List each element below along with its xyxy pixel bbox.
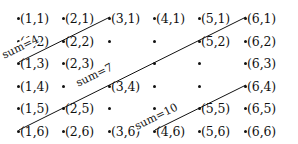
sum-label-sum-7: sum=7	[73, 61, 115, 89]
sum-labels-layer: sum=4sum=7sum=10	[0, 0, 298, 144]
sum-label-sum-4: sum=4	[0, 33, 41, 61]
dice-outcome-figure: (1,1)(2,1)(3,1)(4,1)(5,1)(6,1)(1,2)(2,2)…	[0, 0, 298, 144]
sum-label-sum-10: sum=10	[132, 101, 180, 132]
